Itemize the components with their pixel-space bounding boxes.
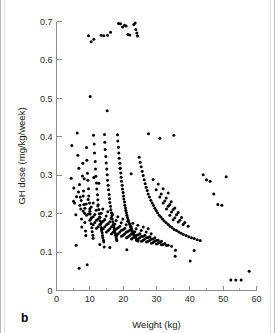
data-point bbox=[92, 134, 95, 137]
data-point bbox=[83, 221, 86, 224]
x-tick-label: 30 bbox=[151, 294, 161, 304]
data-point bbox=[115, 234, 118, 237]
data-point bbox=[82, 209, 85, 212]
data-point bbox=[155, 188, 158, 191]
data-point bbox=[125, 25, 128, 28]
data-point bbox=[80, 226, 83, 229]
data-point bbox=[130, 172, 133, 175]
panel-label: b bbox=[21, 311, 28, 325]
data-point bbox=[92, 38, 95, 41]
data-point bbox=[172, 208, 175, 211]
data-point bbox=[126, 220, 129, 223]
data-point bbox=[103, 141, 106, 144]
data-point bbox=[180, 216, 183, 219]
data-point bbox=[122, 194, 125, 197]
y-tick-label: 0.4 bbox=[40, 132, 53, 142]
x-tick-label: 10 bbox=[85, 294, 95, 304]
data-point bbox=[85, 214, 88, 217]
data-point bbox=[209, 180, 212, 183]
data-point bbox=[196, 238, 199, 241]
data-point bbox=[130, 225, 133, 228]
data-point bbox=[202, 173, 205, 176]
data-point bbox=[135, 239, 138, 242]
data-point bbox=[170, 245, 173, 248]
data-point bbox=[125, 236, 128, 239]
data-point bbox=[121, 188, 124, 191]
data-point bbox=[109, 205, 112, 208]
data-point bbox=[168, 214, 171, 217]
data-point bbox=[103, 133, 106, 136]
data-point bbox=[145, 241, 148, 244]
x-tick-label: 60 bbox=[251, 294, 261, 304]
y-axis-tick-labels: 00.10.20.30.40.50.60.7 bbox=[40, 17, 53, 296]
data-point bbox=[79, 208, 82, 211]
data-point bbox=[125, 223, 128, 226]
data-point bbox=[91, 230, 94, 233]
data-point bbox=[145, 186, 148, 189]
data-point bbox=[101, 208, 104, 211]
data-point bbox=[135, 227, 138, 230]
data-point bbox=[119, 167, 122, 170]
data-point bbox=[174, 255, 177, 258]
data-point bbox=[77, 167, 80, 170]
data-point bbox=[185, 234, 188, 237]
data-point bbox=[147, 227, 150, 230]
data-point bbox=[83, 207, 86, 210]
y-tick-label: 0 bbox=[47, 286, 52, 296]
data-point bbox=[87, 187, 90, 190]
data-point bbox=[142, 226, 145, 229]
data-point bbox=[70, 144, 73, 147]
data-point bbox=[116, 215, 119, 218]
data-point bbox=[104, 155, 107, 158]
data-point bbox=[81, 162, 84, 165]
y-tick-label: 0.3 bbox=[40, 170, 53, 180]
data-point bbox=[149, 199, 152, 202]
data-point bbox=[107, 188, 110, 191]
data-point bbox=[120, 180, 123, 183]
data-point bbox=[144, 182, 147, 185]
data-point bbox=[108, 197, 111, 200]
data-point bbox=[131, 222, 134, 225]
data-point bbox=[212, 193, 215, 196]
data-point bbox=[162, 201, 165, 204]
data-point bbox=[225, 175, 228, 178]
y-tick-label: 0.5 bbox=[40, 94, 53, 104]
data-point bbox=[158, 196, 161, 199]
data-point bbox=[162, 187, 165, 190]
data-point bbox=[124, 206, 127, 209]
data-point bbox=[100, 34, 103, 37]
data-point bbox=[119, 22, 122, 25]
data-point bbox=[150, 232, 153, 235]
data-point bbox=[88, 210, 91, 213]
data-point bbox=[134, 28, 137, 31]
data-point bbox=[240, 279, 243, 282]
y-tick-label: 0.7 bbox=[40, 17, 53, 27]
data-point bbox=[87, 34, 90, 37]
data-point bbox=[151, 201, 154, 204]
data-point bbox=[136, 224, 139, 227]
data-point bbox=[95, 209, 98, 212]
data-point bbox=[76, 131, 79, 134]
data-point bbox=[199, 239, 202, 242]
data-point bbox=[121, 218, 124, 221]
data-point bbox=[216, 203, 219, 206]
data-point bbox=[145, 231, 148, 234]
data-point bbox=[148, 196, 151, 199]
data-point bbox=[80, 218, 83, 221]
data-point bbox=[121, 184, 124, 187]
data-point bbox=[117, 151, 120, 154]
data-point bbox=[80, 199, 83, 202]
data-point bbox=[167, 205, 170, 208]
data-point bbox=[86, 263, 89, 266]
data-point bbox=[108, 193, 111, 196]
data-point bbox=[119, 171, 122, 174]
data-point bbox=[70, 177, 73, 180]
data-point bbox=[116, 133, 119, 136]
data-point bbox=[86, 179, 89, 182]
data-point bbox=[120, 235, 123, 238]
data-point bbox=[93, 143, 96, 146]
data-point bbox=[187, 225, 190, 228]
data-point bbox=[123, 201, 126, 204]
data-point bbox=[101, 231, 104, 234]
data-point bbox=[85, 146, 88, 149]
